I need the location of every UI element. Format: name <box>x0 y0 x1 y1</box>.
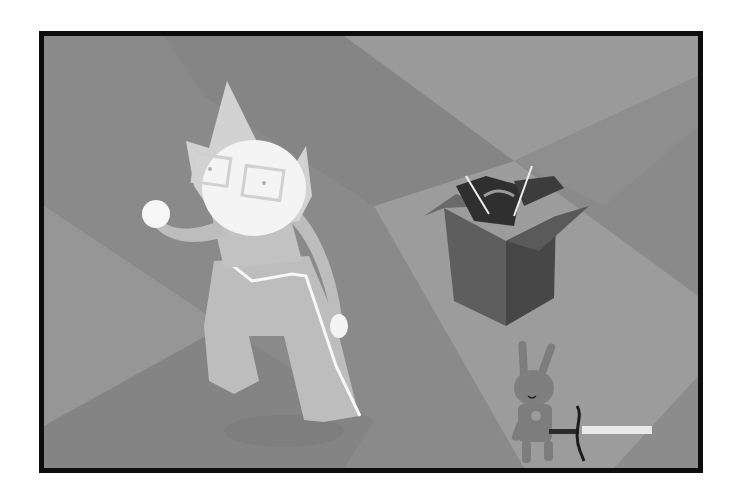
floor-tiles <box>44 36 698 468</box>
scene-illustration <box>44 36 698 468</box>
illustration-frame: Grayscale illustration: a pale cat-eared… <box>39 31 703 473</box>
